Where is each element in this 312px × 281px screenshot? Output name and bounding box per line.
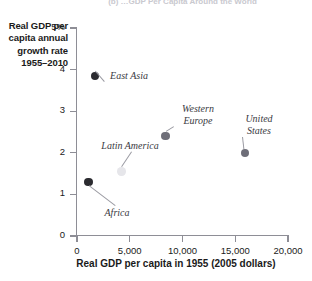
- chart-figure: (b) …GDP Per Capita Around the World Rea…: [0, 0, 312, 281]
- x-axis-tick-label: 15,000: [208, 245, 262, 256]
- x-axis-tick-label: 0: [50, 245, 104, 256]
- x-axis-title: Real GDP per capita in 1955 (2005 dollar…: [40, 258, 312, 269]
- panel-caption: (b) …GDP Per Capita Around the World: [60, 0, 305, 6]
- data-point-latin-america[interactable]: [117, 167, 125, 175]
- x-axis-tick: [76, 235, 77, 242]
- leader-line-united-states: [243, 137, 245, 149]
- x-axis-tick: [235, 235, 236, 242]
- x-axis-tick-label: 10,000: [156, 245, 210, 256]
- x-axis-tick: [287, 235, 288, 242]
- x-axis-tick-label: 20,000: [261, 245, 312, 256]
- y-axis-tick-label: 1: [31, 187, 65, 198]
- point-label-western-europe: Western Europe: [169, 103, 227, 126]
- y-axis-line: [76, 28, 77, 236]
- y-axis-tick: [70, 69, 77, 70]
- y-axis-tick-label: 4: [31, 63, 65, 74]
- y-axis-title-line-2: capita annual: [2, 32, 68, 44]
- y-axis-tick-label: 2: [31, 146, 65, 157]
- data-point-united-states[interactable]: [241, 149, 249, 157]
- data-point-western-europe[interactable]: [161, 132, 169, 140]
- point-label-africa: Africa: [94, 207, 140, 219]
- y-axis-tick: [70, 194, 77, 195]
- y-axis-tick: [70, 111, 77, 112]
- y-axis-tick-label: 0: [31, 229, 65, 240]
- plot-area: 012345%05,00010,00015,00020,000East Asia…: [77, 28, 288, 236]
- y-axis-title-line-3: growth rate: [2, 45, 68, 57]
- y-axis-tick-label: 3: [31, 104, 65, 115]
- point-label-latin-america: Latin America: [91, 140, 169, 152]
- y-axis-tick-label: 5%: [31, 21, 65, 32]
- x-axis-tick-label: 5,000: [103, 245, 157, 256]
- y-axis-tick: [70, 27, 77, 28]
- x-axis-tick: [182, 235, 183, 242]
- leader-line-latin-america: [121, 152, 132, 168]
- x-axis-tick: [129, 235, 130, 242]
- point-label-east-asia: East Asia: [101, 70, 157, 82]
- point-label-united-states: United States: [233, 113, 285, 136]
- leader-line-western-europe: [165, 126, 173, 132]
- leader-line-africa: [89, 185, 116, 206]
- y-axis-tick: [70, 152, 77, 153]
